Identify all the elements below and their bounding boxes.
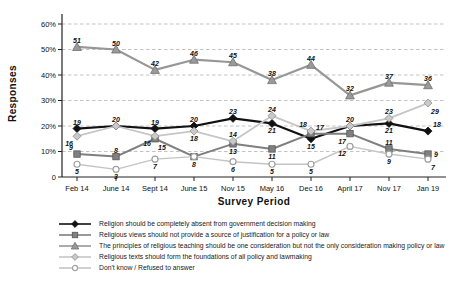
svg-text:19: 19 [151, 119, 159, 126]
legend-item-religion-absent: Religion should be completely absent fro… [58, 218, 444, 229]
legend-diamond-lightgray-icon [58, 252, 92, 262]
svg-text:20: 20 [345, 116, 354, 123]
svg-text:30%: 30% [41, 96, 56, 105]
svg-text:8: 8 [192, 161, 196, 168]
legend-label: Religious views should not provide a sou… [99, 231, 329, 238]
svg-text:11: 11 [385, 139, 392, 146]
svg-text:16: 16 [143, 140, 151, 147]
svg-text:19: 19 [73, 119, 81, 126]
svg-text:9: 9 [387, 158, 391, 165]
svg-text:11: 11 [268, 153, 275, 160]
legend-label: Don't know / Refused to answer [99, 264, 195, 271]
svg-text:6: 6 [231, 166, 235, 173]
svg-text:29: 29 [430, 108, 439, 115]
svg-text:23: 23 [228, 108, 237, 115]
svg-text:51: 51 [73, 37, 81, 44]
legend-circle-white-icon [58, 263, 92, 273]
svg-text:10%: 10% [41, 147, 56, 156]
svg-text:April 17: April 17 [337, 184, 362, 193]
svg-text:Jan 19: Jan 19 [417, 184, 440, 193]
svg-text:15: 15 [158, 144, 166, 151]
svg-text:24: 24 [267, 106, 276, 113]
svg-text:18: 18 [190, 135, 198, 142]
svg-text:13: 13 [229, 148, 237, 155]
y-axis-title: Responses [7, 28, 18, 160]
svg-text:15: 15 [307, 143, 315, 150]
svg-text:16: 16 [65, 140, 73, 147]
svg-text:20%: 20% [41, 122, 56, 131]
svg-text:12: 12 [338, 150, 346, 157]
svg-text:Sept 14: Sept 14 [142, 184, 168, 193]
svg-text:60%: 60% [41, 20, 56, 29]
svg-text:Nov 15: Nov 15 [221, 184, 245, 193]
svg-text:3: 3 [114, 173, 118, 180]
legend-item-dont-know: Don't know / Refused to answer [58, 262, 444, 273]
svg-text:38: 38 [268, 70, 276, 77]
svg-text:May 16: May 16 [260, 184, 285, 193]
svg-text:7: 7 [431, 164, 436, 171]
legend-label: The principles of religious teaching sho… [99, 242, 444, 249]
legend-square-gray-icon [58, 230, 92, 240]
svg-text:14: 14 [229, 131, 237, 138]
legend-item-texts-foundations: Religious texts should form the foundati… [58, 251, 444, 262]
chart-legend: Religion should be completely absent fro… [58, 218, 444, 273]
svg-text:Feb 14: Feb 14 [65, 184, 88, 193]
svg-text:23: 23 [384, 108, 393, 115]
svg-text:17: 17 [316, 124, 325, 131]
svg-text:18: 18 [299, 121, 307, 128]
svg-text:46: 46 [189, 50, 198, 57]
legend-triangle-gray-icon [58, 241, 92, 251]
svg-text:18: 18 [433, 121, 441, 128]
legend-label: Religious texts should form the foundati… [99, 253, 312, 260]
svg-text:50%: 50% [41, 45, 56, 54]
svg-text:17: 17 [338, 138, 347, 145]
svg-text:37: 37 [385, 73, 394, 80]
svg-text:7: 7 [153, 163, 158, 170]
svg-text:20: 20 [111, 116, 120, 123]
legend-diamond-black-icon [58, 219, 92, 229]
svg-text:36: 36 [424, 75, 432, 82]
legend-item-one-consideration: The principles of religious teaching sho… [58, 240, 444, 251]
svg-text:42: 42 [150, 60, 159, 67]
svg-text:5: 5 [75, 168, 79, 175]
survey-line-chart: 010%20%30%40%50%60%Feb 14June 14Sept 14J… [0, 0, 464, 288]
svg-text:June 15: June 15 [181, 184, 208, 193]
legend-item-no-justification: Religious views should not provide a sou… [58, 229, 444, 240]
svg-text:32: 32 [346, 85, 354, 92]
svg-text:5: 5 [270, 168, 274, 175]
svg-text:40%: 40% [41, 71, 56, 80]
svg-text:44: 44 [306, 55, 315, 62]
svg-text:21: 21 [384, 127, 393, 134]
svg-text:50: 50 [112, 40, 120, 47]
svg-text:45: 45 [228, 52, 237, 59]
svg-text:8: 8 [114, 147, 118, 154]
svg-text:Dec 16: Dec 16 [299, 184, 323, 193]
svg-text:0: 0 [52, 173, 56, 182]
svg-text:5: 5 [309, 168, 313, 175]
svg-text:Nov 17: Nov 17 [377, 184, 401, 193]
svg-text:June 14: June 14 [103, 184, 130, 193]
x-axis-title: Survey Period [62, 196, 446, 207]
svg-text:9: 9 [434, 151, 438, 158]
legend-label: Religion should be completely absent fro… [99, 220, 316, 227]
svg-text:21: 21 [267, 127, 276, 134]
svg-text:20: 20 [189, 116, 198, 123]
